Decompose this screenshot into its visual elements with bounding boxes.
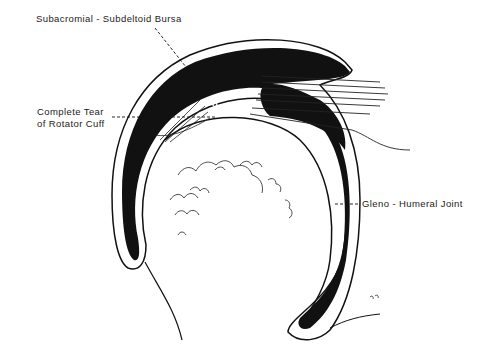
soft-tissue-line [330, 314, 380, 328]
humeral-head-outline [165, 117, 332, 325]
shoulder-diagram [0, 0, 494, 358]
bone-texture [170, 161, 292, 235]
glenohumeral-joint-label: Gleno - Humeral Joint [362, 198, 463, 210]
bursa-marker: o [212, 98, 218, 110]
rotator-cuff-tear-label-line2: of Rotator Cuff [37, 118, 105, 130]
humerus-shaft-left [145, 262, 182, 340]
rotator-cuff-tear-label-line1: Complete Tear [37, 106, 104, 118]
bursa-label: Subacromial - Subdeltoid Bursa [36, 13, 182, 25]
ink-mark [370, 295, 378, 299]
joint-space-fill [298, 128, 349, 329]
